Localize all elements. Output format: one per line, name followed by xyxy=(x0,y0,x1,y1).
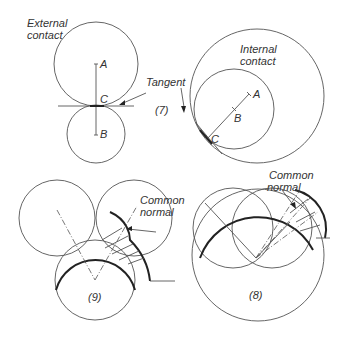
figure-8-number: (8) xyxy=(249,289,263,301)
contact-diagram: A B C External contact Tangent (7) A B C… xyxy=(0,0,345,339)
dash-line-2 xyxy=(256,198,310,258)
common-normal-9-label-2: normal xyxy=(140,206,174,218)
line-left xyxy=(205,203,256,258)
common-normal-9-label-1: Common xyxy=(140,194,185,206)
figure-7-external: A B C External contact xyxy=(27,17,138,163)
thick-arc-bottom xyxy=(56,260,135,290)
internal-contact-label-2: contact xyxy=(240,55,276,67)
figure-7-internal: A B C Internal contact xyxy=(190,29,324,163)
circle-left xyxy=(19,180,95,256)
thick-curve-profile xyxy=(110,212,150,281)
circle-right-inner xyxy=(232,188,312,268)
dash-line-right xyxy=(95,206,137,280)
arrowhead-icon xyxy=(119,100,125,105)
arrowhead-icon xyxy=(181,106,186,113)
internal-contact-label-1: Internal xyxy=(240,43,277,55)
figure-8: Common normal (8) xyxy=(192,169,330,321)
dash-line-3 xyxy=(256,212,318,258)
common-normal-8-label-1: Common xyxy=(269,169,314,181)
point-b-internal-label: B xyxy=(234,112,241,124)
thick-arc-top xyxy=(200,217,313,258)
figure-9-number: (9) xyxy=(88,291,102,303)
point-b-label: B xyxy=(100,128,107,140)
arrowhead-icon xyxy=(290,202,296,209)
point-a-label: A xyxy=(99,58,107,70)
common-normal-8-label-2: normal xyxy=(267,181,301,193)
tangent-annotation: Tangent (7) xyxy=(119,76,186,116)
figure-7-number: (7) xyxy=(155,104,169,116)
external-contact-label-2: contact xyxy=(27,29,63,41)
figure-9: Common normal (9) xyxy=(19,180,185,320)
hatch-8-3 xyxy=(300,225,320,231)
dash-line-1 xyxy=(256,190,300,258)
point-a-internal-label: A xyxy=(252,88,260,100)
normal-leader xyxy=(128,229,156,232)
point-c-label: C xyxy=(100,93,108,105)
circle-left-inner xyxy=(193,188,273,268)
point-c-internal-label: C xyxy=(211,133,219,145)
external-contact-label-1: External xyxy=(27,17,68,29)
tangent-label: Tangent xyxy=(146,76,186,88)
tangent-leader-right xyxy=(181,88,184,107)
